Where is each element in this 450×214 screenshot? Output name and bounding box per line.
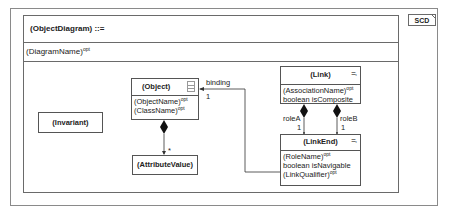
scd-tag: SCD	[408, 14, 436, 26]
link-title: (Link)	[281, 67, 360, 85]
link-end-attribute: (RoleName)opt	[283, 152, 358, 161]
object-attributes: (ObjectName)opt (ClassName)opt	[134, 97, 196, 115]
role-a-multiplicity: 1	[297, 123, 301, 132]
attribute-value-title: (AttributeValue)	[133, 156, 197, 174]
link-end-stereotype-icon: ≕	[351, 137, 357, 144]
diagram-name-label: (DiagramName)opt	[26, 47, 90, 57]
invariant-title: (Invariant)	[39, 113, 102, 132]
link-end-class[interactable]: (LinkEnd) ≕ (RoleName)opt boolean isNavi…	[280, 134, 361, 186]
object-compartment-icon	[187, 81, 195, 92]
link-end-attribute: boolean isNavigable	[283, 161, 358, 170]
binding-label: binding	[206, 78, 230, 87]
invariant-class[interactable]: (Invariant)	[38, 112, 103, 133]
role-a-label: roleA	[283, 114, 301, 123]
link-class[interactable]: (Link) ≕ (AssociationName)opt boolean is…	[280, 66, 361, 104]
diagram-header-row: (ObjectDiagram) ::=	[23, 15, 399, 43]
object-attribute: (ObjectName)opt	[134, 97, 196, 106]
attribute-value-class[interactable]: (AttributeValue)	[132, 155, 198, 175]
role-b-multiplicity: 1	[341, 123, 345, 132]
link-end-attribute: (LinkQualifier)opt	[283, 170, 358, 179]
diagram-name-row: (DiagramName)opt	[23, 42, 399, 62]
link-attribute: (AssociationName)opt	[283, 86, 358, 95]
link-attribute: boolean isComposite	[283, 95, 358, 104]
object-class[interactable]: (Object) (ObjectName)opt (ClassName)opt	[131, 78, 199, 120]
link-end-title: (LinkEnd)	[281, 135, 360, 151]
link-stereotype-icon: ≕	[351, 70, 357, 77]
object-attribute: (ClassName)opt	[134, 106, 196, 115]
role-b-label: roleB	[340, 114, 358, 123]
binding-multiplicity: 1	[206, 92, 210, 101]
attribute-value-multiplicity: *	[168, 146, 171, 155]
link-end-attributes: (RoleName)opt boolean isNavigable (LinkQ…	[283, 152, 358, 179]
link-attributes: (AssociationName)opt boolean isComposite	[283, 86, 358, 104]
diagram-header-title: (ObjectDiagram) ::=	[30, 24, 104, 34]
